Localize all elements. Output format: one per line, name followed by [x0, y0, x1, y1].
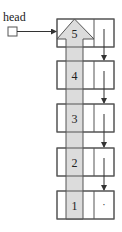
head-label: head — [3, 10, 26, 24]
node-list: 54321· — [57, 19, 114, 219]
linked-list-diagram: 54321· head — [0, 0, 122, 232]
node-value: 2 — [72, 156, 78, 170]
head-pointer: head — [3, 10, 56, 36]
head-pointer-box — [8, 27, 17, 36]
node-value: 5 — [72, 27, 78, 41]
node-value: 1 — [72, 199, 78, 213]
node-value: 3 — [72, 112, 78, 126]
null-pointer-marker: · — [102, 199, 105, 210]
node-value: 4 — [72, 69, 78, 83]
